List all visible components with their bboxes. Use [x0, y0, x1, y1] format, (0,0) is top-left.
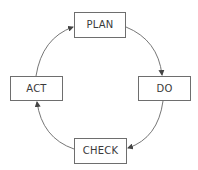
- arrow-do-to-check: [128, 101, 163, 148]
- pdca-cycle-diagram: PLAN DO CHECK ACT: [0, 0, 198, 170]
- node-check: CHECK: [74, 138, 127, 164]
- node-do: DO: [138, 76, 191, 101]
- arrow-check-to-act: [37, 102, 74, 149]
- node-do-label: DO: [157, 84, 173, 94]
- node-check-label: CHECK: [83, 146, 118, 156]
- node-plan: PLAN: [74, 12, 126, 38]
- node-plan-label: PLAN: [87, 20, 114, 30]
- arrow-act-to-plan: [36, 27, 73, 76]
- node-act: ACT: [10, 76, 63, 101]
- arrow-plan-to-do: [126, 27, 162, 75]
- node-act-label: ACT: [26, 84, 46, 94]
